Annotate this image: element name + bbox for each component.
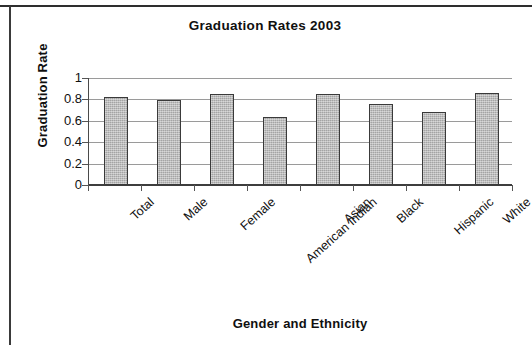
- x-tick-label: Total: [128, 195, 157, 223]
- x-axis-title: Gender and Ethnicity: [88, 316, 512, 331]
- x-axis-tick-labels: TotalMaleFemaleAmerican IndianAsianBlack…: [88, 191, 512, 281]
- y-tick-label: 0.6: [38, 114, 82, 127]
- bar-slot: [354, 78, 407, 185]
- bar-slot: [407, 78, 460, 185]
- bar: [316, 94, 340, 185]
- bar-slot: [142, 78, 195, 185]
- y-tick-label: 0.2: [38, 157, 82, 170]
- bar: [210, 94, 234, 185]
- x-tick-label: White: [500, 195, 532, 227]
- bars-layer: [89, 78, 512, 185]
- bar: [422, 112, 446, 185]
- x-tick-label: Black: [394, 195, 426, 226]
- plot-area: [88, 78, 512, 185]
- bar: [475, 93, 499, 185]
- graduation-rates-bar-chart: Graduation Rates 2003 Graduation Rate 1 …: [0, 0, 532, 356]
- x-tick-mark: [512, 185, 513, 191]
- bar: [263, 117, 287, 185]
- chart-title: Graduation Rates 2003: [30, 18, 500, 33]
- y-axis-tick-labels: 1 0.8 0.6 0.4 0.2 0: [38, 0, 82, 356]
- bar: [157, 100, 181, 185]
- bar-slot: [195, 78, 248, 185]
- x-tick-label: Hispanic: [451, 195, 496, 237]
- y-tick-label: 1: [38, 71, 82, 84]
- bar-slot: [248, 78, 301, 185]
- x-tick-label: Male: [181, 195, 211, 224]
- y-tick-label: 0.8: [38, 92, 82, 105]
- bar: [369, 104, 393, 185]
- bar: [104, 97, 128, 185]
- bar-slot: [89, 78, 142, 185]
- y-tick-label: 0.4: [38, 135, 82, 148]
- bar-slot: [301, 78, 354, 185]
- x-tick-label: Female: [238, 195, 278, 233]
- y-tick-label: 0: [38, 178, 82, 191]
- bar-slot: [460, 78, 513, 185]
